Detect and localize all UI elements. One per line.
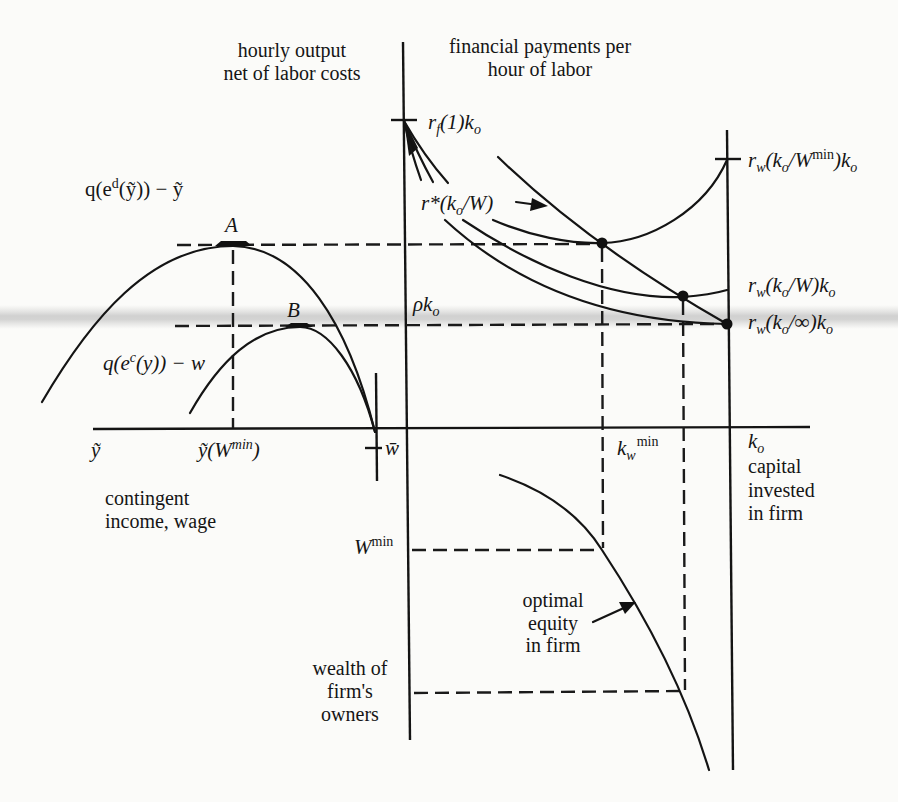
equilibrium-dot-w [678,291,689,302]
owners-wealth-title-3: owners [321,703,379,725]
kw-min-label: kwmin [617,434,658,463]
optimal-equity-label-2: equity [528,612,578,635]
r-star-arrow [516,198,548,211]
curve-rw-w [463,220,727,297]
contingent-income-title-2: income, wage [105,510,216,533]
net-output-title-2: net of labor costs [223,62,360,84]
optimal-equity-label-3: in firm [526,634,581,656]
curve-r-star [498,157,727,324]
capital-invested-title-2: invested [748,479,815,501]
dashed-w-level [414,691,683,693]
horizontal-axis [93,427,810,429]
right-vertical-axis [727,130,733,770]
y-tilde-wmin-label: ỹ(Wmin) [196,437,260,462]
owners-wealth-title-1: wealth of [313,657,388,679]
net-output-title-1: hourly output [238,39,347,62]
ko-label: ko [748,429,764,456]
y-tilde-label: ỹ [89,438,101,462]
contingent-income-title-1: contingent [105,487,190,510]
r-star-label: r*(ko/W) [421,191,493,218]
equilibrium-dot-wmin [597,238,608,249]
capital-invested-title-3: in firm [748,502,803,524]
dashed-kw-min [602,248,603,548]
w-min-label: Wmin [354,534,393,559]
curve-q-ed [42,246,375,432]
rho-ko-label: ρko [412,292,439,319]
rw-w-label: rw(ko/W)ko [748,273,836,300]
optimal-equity-label-1: optimal [522,589,584,612]
rw-wmin-label: rw(ko/Wmin)ko [748,147,857,175]
point-a-marker [215,241,252,246]
dashed-kw [683,301,685,690]
w-bar-vertical [376,373,377,481]
w-bar-label: w̄ [385,436,399,460]
label-q-ed: q(ed(ỹ)) − ỹ [85,176,184,201]
economics-diagram: hourly output net of labor costs financi… [0,0,898,802]
curve-q-ec [190,327,375,432]
diagram-canvas: hourly output net of labor costs financi… [0,0,898,802]
point-a-label: A [223,213,238,237]
label-q-ec: q(ec(y)) − w [103,350,205,375]
point-b-label: B [287,298,300,322]
owners-wealth-title-2: firm's [327,680,373,702]
financial-payments-title-2: hour of labor [488,58,593,80]
financial-payments-title-1: financial payments per [449,35,631,58]
axes [93,42,810,770]
rf1ko-label: rf(1)ko [428,110,481,137]
capital-invested-title-1: capital [748,455,802,478]
equilibrium-dot-inf [722,319,733,330]
optimal-equity-arrow [593,602,636,622]
curve-rw-wmin [493,160,727,243]
